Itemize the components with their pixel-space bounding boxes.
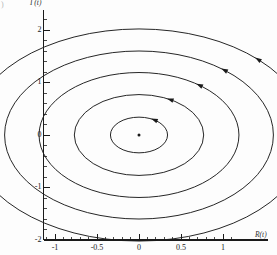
phase-plane-plot xyxy=(0,0,277,255)
orbit-direction-arrow xyxy=(255,58,262,63)
x-tick-label: -1 xyxy=(44,244,66,252)
figure-container: ) I (t) R(t) 210-1-2-1-0.500.51 xyxy=(0,0,277,255)
y-axis-title: I (t) xyxy=(30,0,41,7)
origin-dot xyxy=(138,134,141,137)
x-tick-label: 1 xyxy=(212,244,234,252)
x-axis-title: R(t) xyxy=(255,231,267,239)
y-tick-label: 0 xyxy=(31,131,42,139)
y-tick-label: -1 xyxy=(31,183,42,191)
orbit-direction-arrow xyxy=(196,84,203,89)
orbit-direction-arrow xyxy=(221,69,228,74)
center-marker xyxy=(138,134,141,137)
y-tick-label: 1 xyxy=(31,78,42,86)
orbit-direction-arrow xyxy=(167,98,174,102)
y-tick-label: -2 xyxy=(31,236,42,244)
x-tick-label: 0.5 xyxy=(170,244,192,252)
x-tick-label: -0.5 xyxy=(86,244,108,252)
orbit-direction-arrow xyxy=(151,119,158,124)
axes-group xyxy=(44,10,269,240)
y-tick-label: 2 xyxy=(31,26,42,34)
x-tick-label: 0 xyxy=(128,244,150,252)
